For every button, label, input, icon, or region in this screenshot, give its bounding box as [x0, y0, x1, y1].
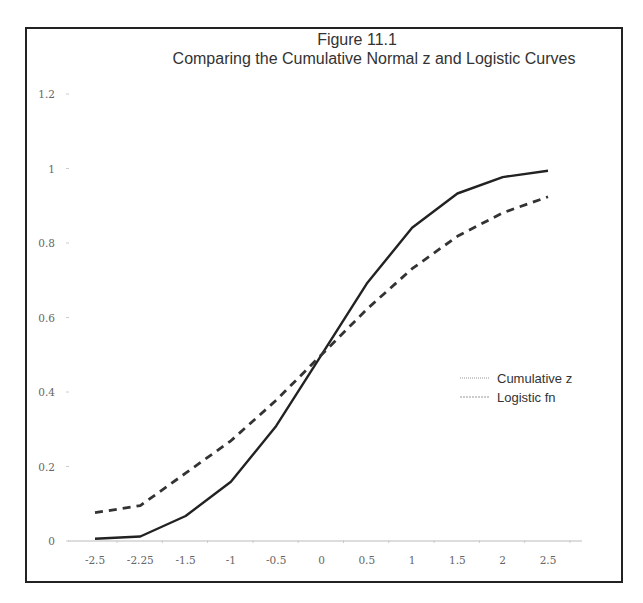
plot-area: 00.20.40.60.811.2 -2.5-2.25-1.5-1-0.500.…	[0, 0, 643, 603]
x-tick-label: -2.5	[85, 554, 105, 566]
x-tick-label: 1	[409, 554, 416, 566]
x-tick-label: -0.5	[266, 554, 286, 566]
x-tick-label: -2.25	[127, 554, 154, 566]
y-tick-label: 0.6	[38, 312, 55, 324]
y-tick-label: 1	[48, 163, 55, 175]
y-tick-label: 1.2	[38, 88, 55, 100]
legend-label-cumulative-z: Cumulative z	[497, 371, 572, 386]
x-tick-label: 0.5	[358, 554, 375, 566]
x-tick-label: 1.5	[449, 554, 466, 566]
y-tick-label: 0.8	[38, 237, 55, 249]
y-tick-label: 0.4	[38, 386, 55, 398]
x-axis: -2.5-2.25-1.5-1-0.500.511.522.5	[68, 540, 582, 566]
series-lines	[95, 171, 548, 539]
x-tick-label: 2.5	[540, 554, 557, 566]
x-tick-label: 0	[318, 554, 325, 566]
legend-label-logistic-fn: Logistic fn	[497, 390, 556, 405]
x-tick-label: 2	[499, 554, 506, 566]
x-tick-label: -1	[226, 554, 236, 566]
series-line-logistic-fn	[95, 197, 548, 513]
y-axis: 00.20.40.60.811.2	[38, 88, 69, 547]
y-tick-label: 0.2	[38, 461, 55, 473]
y-tick-label: 0	[48, 535, 55, 547]
legend: Cumulative z Logistic fn	[460, 371, 572, 405]
x-tick-label: -1.5	[175, 554, 195, 566]
